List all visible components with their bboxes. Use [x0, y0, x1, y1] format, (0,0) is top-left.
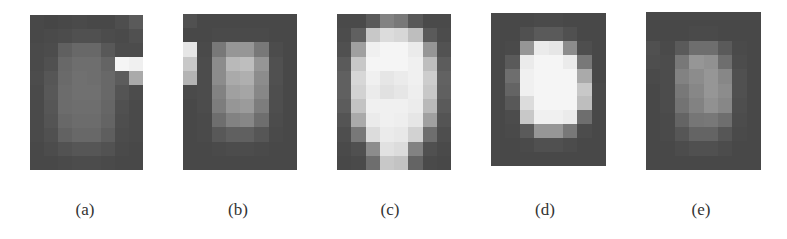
panel-label-d: (d)	[535, 200, 555, 220]
pixel-cell	[747, 127, 761, 141]
pixel-cell	[549, 55, 563, 69]
pixel-cell	[534, 13, 548, 27]
pixel-cell	[520, 152, 534, 166]
pixel-cell	[689, 156, 703, 170]
pixel-cell	[718, 141, 732, 155]
pixel-cell	[212, 99, 226, 113]
pixel-cell	[254, 113, 268, 127]
pixel-cell	[563, 124, 577, 138]
pixel-cell	[240, 156, 254, 170]
pixel-cell	[197, 14, 211, 28]
pixel-cell	[491, 13, 505, 27]
pixel-cell	[226, 28, 240, 42]
pixel-cell	[704, 69, 718, 83]
pixel-cell	[183, 127, 197, 141]
pixel-cell	[240, 85, 254, 99]
pixel-cell	[101, 29, 115, 43]
pixel-cell	[101, 57, 115, 71]
pixel-cell	[732, 127, 746, 141]
pixel-cell	[226, 127, 240, 141]
pixel-cell	[437, 14, 451, 28]
pixel-cell	[351, 142, 365, 156]
pixel-cell	[563, 41, 577, 55]
pixel-cell	[380, 14, 394, 28]
pixel-cell	[30, 128, 44, 142]
pixel-cell	[437, 71, 451, 85]
pixel-cell	[30, 100, 44, 114]
pixel-cell	[337, 14, 351, 28]
pixel-cell	[563, 83, 577, 97]
pixel-cell	[437, 127, 451, 141]
pixel-cell	[563, 110, 577, 124]
pixel-cell	[408, 99, 422, 113]
pixel-cell	[437, 113, 451, 127]
pixel-cell	[704, 98, 718, 112]
panel-label-b: (b)	[228, 200, 248, 220]
pixel-cell	[337, 85, 351, 99]
pixel-cell	[129, 15, 143, 29]
pixel-cell	[394, 113, 408, 127]
pixel-cell	[183, 14, 197, 28]
pixel-cell	[423, 127, 437, 141]
pixel-cell	[101, 114, 115, 128]
pixel-cell	[72, 71, 86, 85]
pixel-cell	[240, 57, 254, 71]
pixel-cell	[704, 127, 718, 141]
pixel-cell	[101, 85, 115, 99]
pixel-cell	[87, 15, 101, 29]
pixel-cell	[520, 41, 534, 55]
pixel-cell	[351, 85, 365, 99]
pixel-cell	[212, 28, 226, 42]
pixel-cell	[675, 41, 689, 55]
pixel-cell	[675, 84, 689, 98]
pixel-cell	[30, 114, 44, 128]
pixel-cell	[689, 127, 703, 141]
pixel-cell	[183, 42, 197, 56]
pixel-cell	[351, 113, 365, 127]
pixel-cell	[44, 156, 58, 170]
pixel-cell	[101, 15, 115, 29]
pixel-cell	[44, 71, 58, 85]
pixel-cell	[646, 84, 660, 98]
pixel-cell	[660, 156, 674, 170]
pixel-cell	[718, 127, 732, 141]
pixel-cell	[240, 99, 254, 113]
pixel-cell	[254, 71, 268, 85]
pixel-cell	[505, 138, 519, 152]
pixel-cell	[646, 69, 660, 83]
pixel-cell	[337, 42, 351, 56]
image-panel-c	[337, 14, 451, 170]
pixel-cell	[269, 156, 283, 170]
pixel-cell	[689, 41, 703, 55]
pixel-cell	[129, 29, 143, 43]
pixel-cell	[394, 99, 408, 113]
pixel-cell	[747, 113, 761, 127]
pixel-cell	[534, 69, 548, 83]
pixel-cell	[491, 41, 505, 55]
pixel-cell	[183, 142, 197, 156]
pixel-cell	[226, 142, 240, 156]
pixel-cell	[351, 156, 365, 170]
pixel-cell	[423, 156, 437, 170]
pixel-cell	[101, 100, 115, 114]
pixel-cell	[87, 29, 101, 43]
pixel-cell	[183, 57, 197, 71]
pixel-cell	[115, 57, 129, 71]
pixel-cell	[520, 96, 534, 110]
pixel-cell	[380, 127, 394, 141]
pixel-cell	[197, 113, 211, 127]
pixel-cell	[58, 85, 72, 99]
pixel-cell	[689, 69, 703, 83]
pixel-cell	[366, 57, 380, 71]
pixel-cell	[437, 142, 451, 156]
pixel-cell	[197, 142, 211, 156]
pixel-cell	[534, 138, 548, 152]
pixel-cell	[58, 29, 72, 43]
pixel-cell	[437, 57, 451, 71]
pixel-cell	[660, 69, 674, 83]
pixel-cell	[718, 113, 732, 127]
pixel-cell	[283, 127, 297, 141]
pixel-cell	[718, 41, 732, 55]
pixel-cell	[58, 128, 72, 142]
pixel-cell	[337, 156, 351, 170]
